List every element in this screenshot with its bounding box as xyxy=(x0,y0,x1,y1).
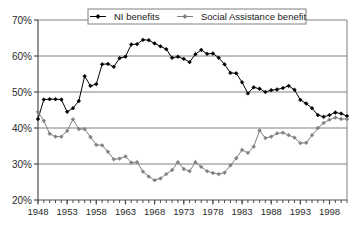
y-tick-label-60: 60% xyxy=(12,51,32,62)
data-point xyxy=(100,62,104,66)
data-point xyxy=(176,55,180,59)
data-point xyxy=(328,113,332,117)
data-point xyxy=(269,135,273,139)
data-point xyxy=(147,38,151,42)
x-tick-label-1988: 1988 xyxy=(261,206,282,217)
y-tick-label-70: 70% xyxy=(12,15,32,26)
data-point xyxy=(339,117,343,121)
data-point xyxy=(182,57,186,61)
data-point xyxy=(345,117,349,121)
data-point xyxy=(275,132,279,136)
data-point xyxy=(42,98,46,102)
data-point xyxy=(211,171,215,175)
data-point xyxy=(59,98,63,102)
series-social-assistance-benefit xyxy=(36,110,349,182)
data-point xyxy=(328,118,332,122)
series-line xyxy=(38,40,347,119)
x-tick-label-1963: 1963 xyxy=(115,206,136,217)
data-point xyxy=(129,43,133,47)
chart-container: 20%30%40%50%60%70%1948195319581963196819… xyxy=(0,0,359,233)
series-ni-benefits xyxy=(36,38,349,121)
data-point xyxy=(322,115,326,119)
x-tick-label-1958: 1958 xyxy=(86,206,107,217)
x-tick-label-1998: 1998 xyxy=(319,206,340,217)
legend-label-1: Social Assistance benefit xyxy=(201,11,306,22)
x-tick-label-1953: 1953 xyxy=(57,206,78,217)
data-point xyxy=(94,82,98,86)
x-tick-label-1948: 1948 xyxy=(27,206,48,217)
y-tick-label-30: 30% xyxy=(12,159,32,170)
data-point xyxy=(281,131,285,135)
data-point xyxy=(339,112,343,116)
data-point xyxy=(333,116,337,120)
legend-label-0: NI benefits xyxy=(114,11,160,22)
data-point xyxy=(118,157,122,161)
data-point xyxy=(287,133,291,137)
x-tick-label-1973: 1973 xyxy=(173,206,194,217)
series-line xyxy=(38,112,347,180)
data-point xyxy=(153,42,157,46)
data-point xyxy=(159,44,163,48)
data-point xyxy=(281,86,285,90)
y-tick-label-50: 50% xyxy=(12,87,32,98)
y-tick-label-40: 40% xyxy=(12,123,32,134)
y-tick-label-20: 20% xyxy=(12,195,32,206)
data-point xyxy=(124,55,128,59)
line-chart: 20%30%40%50%60%70%1948195319581963196819… xyxy=(0,0,359,233)
data-point xyxy=(54,97,58,101)
data-point xyxy=(48,97,52,101)
data-point xyxy=(48,132,52,136)
data-point xyxy=(106,62,110,66)
data-point xyxy=(54,135,58,139)
x-tick-label-1978: 1978 xyxy=(202,206,223,217)
data-point xyxy=(333,111,337,115)
data-point xyxy=(275,88,279,92)
x-tick-label-1968: 1968 xyxy=(144,206,165,217)
data-point xyxy=(258,87,262,91)
data-point xyxy=(263,90,267,94)
data-point xyxy=(36,117,40,121)
data-point xyxy=(217,172,221,176)
x-tick-label-1993: 1993 xyxy=(290,206,311,217)
x-tick-label-1983: 1983 xyxy=(231,206,252,217)
